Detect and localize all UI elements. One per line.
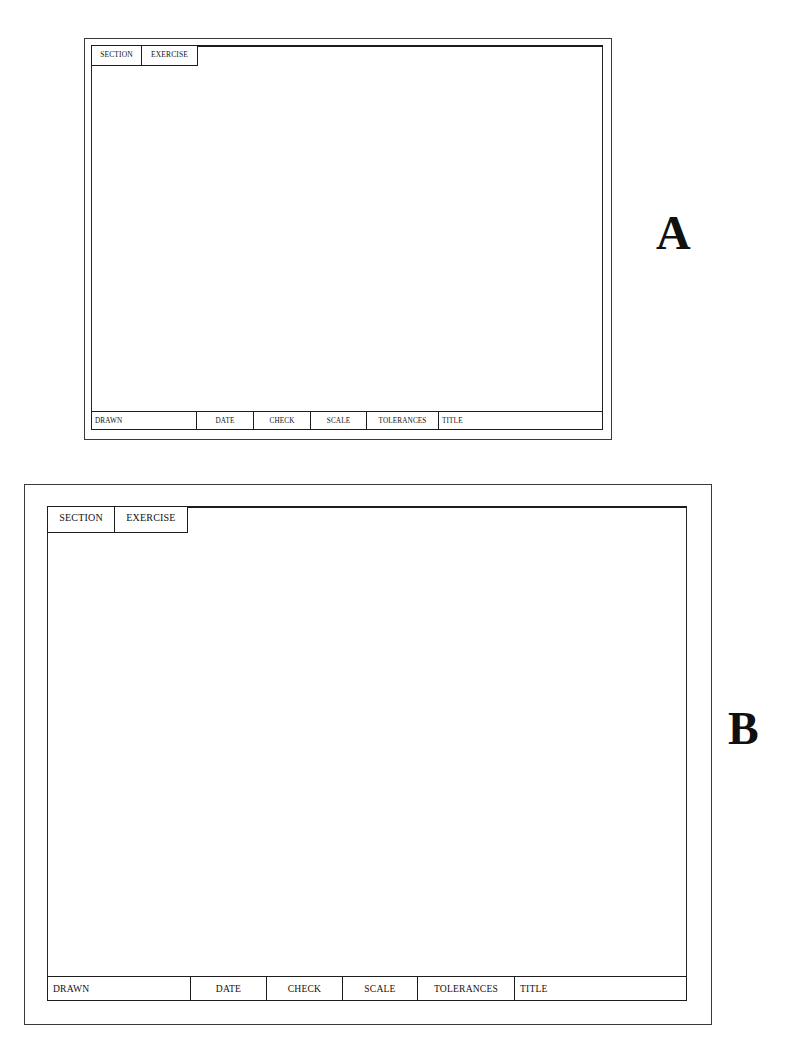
header-rule-b [186,506,687,508]
header-rule-a [196,45,603,47]
drawing-field-a[interactable] [92,46,602,429]
title-label-check-b: CHECK [288,983,321,994]
sheet-inner-border-a: SECTION EXERCISE DRAWN DATE CHECK SCALE … [91,45,603,430]
title-label-title-a: TITLE [439,417,463,425]
title-label-scale-b: SCALE [364,983,395,994]
header-label-section-a: SECTION [100,46,133,59]
title-cell-scale-a[interactable]: SCALE [310,412,366,429]
title-label-date-b: DATE [216,983,241,994]
title-cell-title-b[interactable]: TITLE [514,977,686,1000]
title-label-drawn-b: DRAWN [48,983,89,994]
title-cell-tolerances-b[interactable]: TOLERANCES [417,977,514,1000]
header-label-section-b: SECTION [59,507,103,523]
title-label-tolerances-a: TOLERANCES [378,417,426,425]
title-block-b: DRAWN DATE CHECK SCALE TOLERANCES TITLE [47,976,687,1001]
figure-letter-a: A [656,209,691,257]
title-cell-scale-b[interactable]: SCALE [342,977,417,1000]
title-block-a: DRAWN DATE CHECK SCALE TOLERANCES TITLE [91,411,603,430]
title-label-check-a: CHECK [269,417,294,425]
title-cell-drawn-a[interactable]: DRAWN [92,412,196,429]
title-cell-drawn-b[interactable]: DRAWN [48,977,190,1000]
title-cell-date-b[interactable]: DATE [190,977,266,1000]
title-label-drawn-a: DRAWN [92,417,122,425]
drawing-sheet-b: SECTION EXERCISE DRAWN DATE CHECK SCALE … [24,484,712,1025]
title-cell-check-a[interactable]: CHECK [253,412,310,429]
title-label-title-b: TITLE [515,983,548,994]
drawing-sheet-a: SECTION EXERCISE DRAWN DATE CHECK SCALE … [84,38,612,440]
header-label-exercise-b: EXERCISE [126,507,175,523]
figure-letter-b: B [728,706,759,752]
header-block-a: SECTION EXERCISE [91,45,198,66]
title-label-date-a: DATE [216,417,235,425]
header-label-exercise-a: EXERCISE [151,46,188,59]
header-cell-section-a[interactable]: SECTION [92,46,141,65]
title-label-scale-a: SCALE [327,417,350,425]
title-label-tolerances-b: TOLERANCES [434,983,498,994]
header-cell-section-b[interactable]: SECTION [48,507,114,532]
title-cell-date-a[interactable]: DATE [196,412,253,429]
sheet-inner-border-b: SECTION EXERCISE DRAWN DATE CHECK SCALE … [47,506,687,1001]
header-block-b: SECTION EXERCISE [47,506,188,533]
title-cell-check-b[interactable]: CHECK [266,977,342,1000]
header-cell-exercise-b[interactable]: EXERCISE [114,507,187,532]
title-cell-tolerances-a[interactable]: TOLERANCES [366,412,438,429]
title-cell-title-a[interactable]: TITLE [438,412,602,429]
drawing-field-b[interactable] [48,507,686,1000]
header-cell-exercise-a[interactable]: EXERCISE [141,46,197,65]
